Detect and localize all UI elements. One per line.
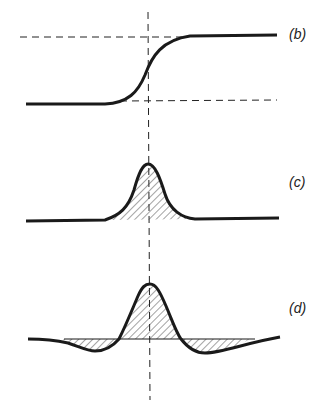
central-peak-fill — [119, 284, 181, 339]
step-curve — [26, 35, 277, 104]
diagram-canvas — [0, 0, 329, 403]
peak-fill — [105, 164, 195, 220]
panel-c — [26, 164, 279, 221]
panel-b — [20, 35, 277, 104]
panel-d — [28, 284, 280, 353]
panel-label-d: (d) — [289, 300, 306, 316]
panel-label-c: (c) — [289, 174, 305, 190]
panel-label-b: (b) — [289, 26, 306, 42]
lower-level-line — [120, 100, 277, 101]
